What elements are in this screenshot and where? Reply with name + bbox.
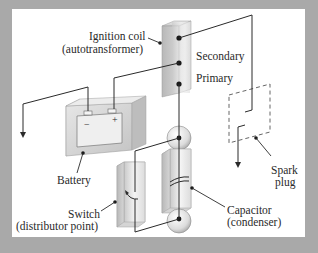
secondary-label: Secondary: [196, 50, 245, 63]
battery-ground-arrow-icon: [20, 132, 26, 138]
leader-ignition-coil: [148, 38, 160, 43]
ignition-coil-sublabel: (autotransformer): [62, 43, 143, 56]
battery-plus-sign: +: [112, 114, 118, 125]
ignition-coil: [158, 21, 191, 97]
capacitor-sublabel: (condenser): [227, 216, 281, 229]
ignition-circuit-diagram: − +: [0, 0, 318, 253]
switch-sublabel: (distributor point): [16, 220, 98, 233]
leader-capacitor: [192, 188, 225, 207]
leader-spark-plug: [256, 138, 271, 156]
leader-switch: [101, 202, 115, 211]
labels: Ignition coil (autotransformer) Secondar…: [16, 30, 298, 233]
battery: − +: [66, 96, 146, 156]
wire-spark-to-ground: [238, 125, 245, 165]
spark-ground-arrow-icon: [235, 162, 241, 168]
battery-label: Battery: [57, 174, 91, 187]
battery-positive-terminal: [108, 109, 116, 113]
primary-label: Primary: [196, 72, 233, 85]
leader-battery: [77, 153, 83, 173]
spark-plug-sublabel: plug: [275, 176, 296, 189]
spark-plug-outline: [229, 84, 270, 143]
ignition-coil-label: Ignition coil: [89, 30, 146, 43]
battery-negative-terminal: [84, 111, 92, 115]
spark-plug: [229, 84, 270, 143]
switch: [113, 162, 145, 227]
switch-label: Switch: [68, 208, 100, 220]
battery-minus-sign: −: [84, 119, 90, 130]
